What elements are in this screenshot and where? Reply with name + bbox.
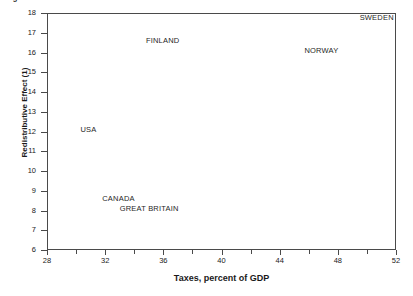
y-axis-tick [41, 92, 47, 93]
data-point-label: USA [80, 126, 96, 134]
x-axis-tick-minor [309, 250, 310, 254]
x-axis-tick-label: 48 [326, 256, 350, 265]
data-point-label: CANADA [102, 195, 134, 203]
y-axis-tick [41, 53, 47, 54]
x-axis-tick-label: 32 [93, 256, 117, 265]
y-axis-tick-label: 18 [16, 9, 36, 17]
y-axis-tick-label: 8 [16, 207, 36, 215]
x-axis-tick [280, 250, 281, 255]
y-axis-tick [41, 112, 47, 113]
x-axis-tick-minor [76, 250, 77, 254]
plot-area [47, 13, 396, 250]
data-point-label: SWEDEN [360, 14, 394, 22]
y-axis-tick-label: 6 [16, 246, 36, 254]
x-axis-tick-minor [251, 250, 252, 254]
chart-figure: Figure 1. Redistributive Effect and Tax … [0, 0, 413, 296]
x-axis-tick-minor [367, 250, 368, 254]
y-axis-tick [41, 211, 47, 212]
x-axis-tick-label: 40 [210, 256, 234, 265]
x-axis-tick-label: 44 [268, 256, 292, 265]
data-point-label: NORWAY [304, 47, 338, 55]
x-axis-tick [396, 250, 397, 255]
x-axis-tick-label: 28 [35, 256, 59, 265]
x-axis-tick-minor [134, 250, 135, 254]
x-axis-tick [222, 250, 223, 255]
y-axis-tick [41, 33, 47, 34]
y-axis-tick [41, 72, 47, 73]
x-axis-tick-minor [192, 250, 193, 254]
y-axis-tick [41, 191, 47, 192]
x-axis-tick-label: 52 [384, 256, 408, 265]
y-axis-tick [41, 132, 47, 133]
y-axis-title: Redistributive Effect (1) [20, 33, 29, 193]
y-axis-tick [41, 151, 47, 152]
y-axis-tick-label: 7 [16, 226, 36, 234]
y-axis-tick [41, 13, 47, 14]
x-axis-tick [338, 250, 339, 255]
data-point-label: GREAT BRITAIN [120, 205, 179, 213]
x-axis-tick [163, 250, 164, 255]
y-axis-tick [41, 171, 47, 172]
figure-caption: Figure 1. Redistributive Effect and Tax … [6, 0, 406, 3]
x-axis-tick [47, 250, 48, 255]
x-axis-title: Taxes, percent of GDP [47, 273, 396, 283]
data-point-label: FINLAND [146, 37, 180, 45]
x-axis-tick [105, 250, 106, 255]
y-axis-tick [41, 230, 47, 231]
x-axis-tick-label: 36 [151, 256, 175, 265]
